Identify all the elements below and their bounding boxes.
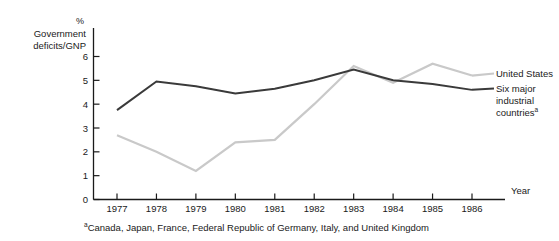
y-axis-unit: % [76, 16, 84, 26]
y-tick-label-2: 2 [83, 146, 88, 157]
x-tick-label-1982: 1982 [304, 203, 325, 214]
legend-label-six-major-line3[interactable]: countriesa [496, 106, 539, 118]
x-tick-label-1984: 1984 [383, 203, 404, 214]
x-tick-label-1983: 1983 [343, 203, 364, 214]
y-tick-group [94, 57, 100, 200]
series-group [117, 64, 472, 171]
x-tick-label-1978: 1978 [146, 203, 167, 214]
y-tick-label-0: 0 [83, 194, 88, 205]
chart-figure: 0123456 19771978197919801981198219831984… [0, 0, 559, 241]
footnote: aCanada, Japan, France, Federal Republic… [84, 221, 429, 233]
y-tick-label-group: 0123456 [83, 51, 88, 205]
x-tick-group [117, 194, 472, 200]
legend-connector-united-states [472, 74, 494, 76]
x-tick-label-1981: 1981 [264, 203, 285, 214]
legend-connector-group [472, 74, 494, 90]
line-chart: 0123456 19771978197919801981198219831984… [0, 0, 559, 241]
x-tick-label-group: 1977197819791980198119821983198419851986 [106, 203, 482, 214]
series-line-six-major-industrial-countries [117, 70, 472, 111]
y-tick-label-6: 6 [83, 51, 88, 62]
y-tick-label-4: 4 [83, 99, 88, 110]
y-axis-label-line1: Government [34, 28, 87, 39]
x-tick-label-1977: 1977 [106, 203, 127, 214]
legend-label-six-major-line2[interactable]: industrial [496, 95, 534, 106]
y-tick-label-5: 5 [83, 75, 88, 86]
x-axis-label: Year [511, 185, 530, 196]
x-tick-label-1979: 1979 [185, 203, 206, 214]
series-line-united-states [117, 64, 472, 171]
y-tick-label-3: 3 [83, 123, 88, 134]
x-tick-label-1985: 1985 [422, 203, 443, 214]
y-axis-label-line2: deficits/GNP [33, 40, 86, 51]
y-tick-label-1: 1 [83, 170, 88, 181]
x-tick-label-1986: 1986 [461, 203, 482, 214]
legend-label-united-states[interactable]: United States [496, 68, 553, 79]
legend-connector-six-major [472, 89, 494, 90]
legend-label-six-major-line1[interactable]: Six major [496, 83, 536, 94]
x-tick-label-1980: 1980 [225, 203, 246, 214]
